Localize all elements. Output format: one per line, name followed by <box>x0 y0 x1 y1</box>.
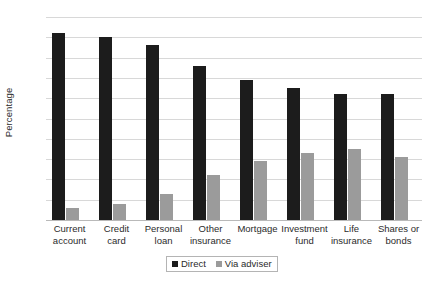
x-tick-label: Shares orbonds <box>371 223 426 246</box>
plot-area <box>46 17 422 220</box>
x-tick-label-line: Other <box>199 223 223 234</box>
bar <box>66 208 79 220</box>
bar-group <box>93 17 140 220</box>
bar <box>395 157 408 220</box>
bar <box>193 66 206 220</box>
legend-swatch-via-adviser <box>216 261 222 267</box>
x-tick-label-line: Credit <box>104 223 129 234</box>
x-tick-label-line: Life <box>344 223 359 234</box>
bar <box>52 33 65 220</box>
bar <box>348 149 361 220</box>
bar-group <box>328 17 375 220</box>
y-axis-title: Percentage <box>0 0 18 225</box>
bar <box>146 45 159 220</box>
y-axis-title-label: Percentage <box>4 88 15 138</box>
bar <box>301 153 314 220</box>
x-tick-label-line: bonds <box>371 235 426 247</box>
legend-item: Direct <box>172 258 206 269</box>
x-axis-tick-labels: CurrentaccountCreditcardPersonalloanOthe… <box>46 223 422 253</box>
bar <box>207 175 220 220</box>
bar-group <box>187 17 234 220</box>
x-tick-label-line: Personal <box>145 223 183 234</box>
x-tick-label-line: Mortgage <box>237 223 277 234</box>
legend-item: Via adviser <box>216 258 272 269</box>
bar-chart: Percentage 0102030405060708090100 Curren… <box>0 0 429 285</box>
bar-group <box>234 17 281 220</box>
legend-item-label: Via adviser <box>225 258 272 269</box>
bar-group <box>281 17 328 220</box>
x-tick-label-line: Shares or <box>378 223 419 234</box>
bar <box>160 194 173 220</box>
gridline-0 <box>46 220 422 221</box>
x-tick-label-line: Current <box>54 223 86 234</box>
bar <box>113 204 126 220</box>
bar-group <box>375 17 422 220</box>
x-tick-label-line: insurance <box>183 235 238 247</box>
bar <box>254 161 267 220</box>
legend-item-label: Direct <box>181 258 206 269</box>
bar-group <box>46 17 93 220</box>
bar <box>99 37 112 220</box>
bar <box>240 80 253 220</box>
bar <box>334 94 347 220</box>
x-tick-label-line: Investment <box>281 223 327 234</box>
bar <box>381 94 394 220</box>
legend-swatch-direct <box>172 261 178 267</box>
bar-group <box>140 17 187 220</box>
legend: DirectVia adviser <box>166 256 278 272</box>
bar <box>287 88 300 220</box>
